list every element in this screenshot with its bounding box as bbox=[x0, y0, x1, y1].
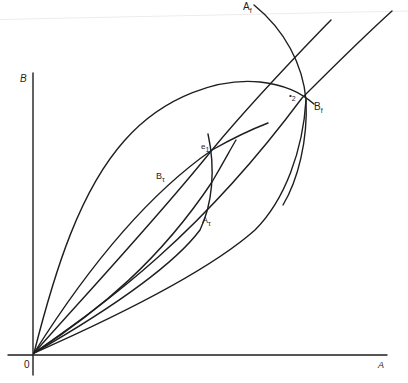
label-At-sub: τ bbox=[208, 220, 211, 227]
label-Bf: Bf bbox=[314, 102, 323, 112]
label-Af: Af bbox=[243, 2, 252, 12]
label-e2: •2 bbox=[289, 92, 296, 100]
label-e2-sub: 2 bbox=[292, 95, 296, 102]
label-e1-sub: 1 bbox=[205, 146, 209, 153]
ray-3 bbox=[34, 140, 236, 353]
outer-offer-curve-lower bbox=[34, 100, 306, 353]
ray-1 bbox=[34, 20, 331, 353]
label-Bf-sub: f bbox=[321, 107, 323, 114]
label-Af-base: A bbox=[243, 1, 250, 12]
label-At: Aτ bbox=[202, 216, 211, 225]
outer-offer-curve-upper bbox=[34, 81, 314, 353]
label-Bf-base: B bbox=[314, 101, 321, 112]
label-Af-sub: f bbox=[250, 7, 252, 14]
label-e1: e1 bbox=[201, 143, 209, 151]
diagram-canvas bbox=[0, 0, 408, 383]
curve-Af bbox=[254, 5, 306, 205]
ray-2 bbox=[34, 11, 392, 353]
x-axis-label: A bbox=[378, 361, 384, 370]
y-axis-label: B bbox=[20, 74, 27, 84]
label-Bt: Bτ bbox=[156, 172, 165, 181]
diagram-figure: B 0 A Af Bf •2 e1 Bτ Aτ bbox=[0, 0, 408, 383]
origin-label: 0 bbox=[24, 360, 30, 370]
curve-At bbox=[34, 134, 212, 353]
label-Bt-sub: τ bbox=[162, 176, 165, 183]
